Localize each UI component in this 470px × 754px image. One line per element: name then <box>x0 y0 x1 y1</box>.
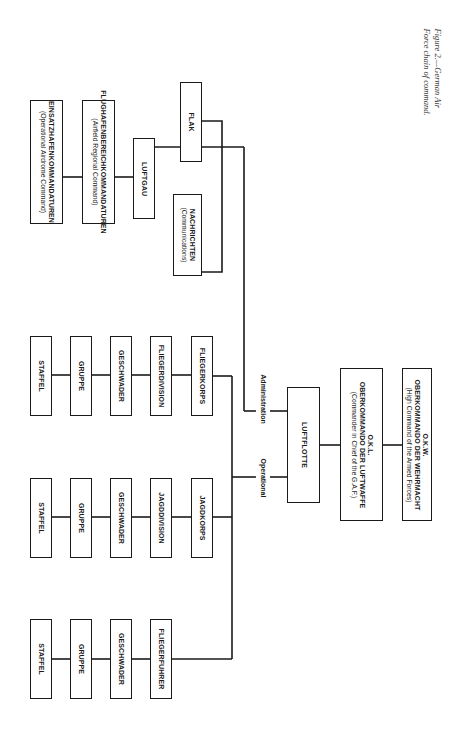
okl-abbr: O.K.L. <box>365 381 373 508</box>
chain1-item-label: GRUPPE <box>77 361 85 391</box>
chain3-item-label: GESCHWADER <box>117 633 125 685</box>
chain1-item-label: GESCHWADER <box>117 350 125 402</box>
flughafen-title: FLUGHAFENBEREICHKOMMANDATUREN <box>98 90 106 234</box>
nachrichten-box: NACHRICHTEN (Communications) <box>173 194 202 276</box>
chain2-item-label: GRUPPE <box>77 503 85 533</box>
flughafen-subtitle: (Airfield Regional Command) <box>91 90 99 234</box>
chain1-item-label: STAFFEL <box>37 360 45 392</box>
luftgau-title: LUFTGAU <box>140 161 148 195</box>
administration-label: Administration <box>260 371 267 426</box>
okl-title: OBERKOMMANDO DER LUFTWAFFE <box>357 381 365 508</box>
luftflotte-title: LUFTFLOTTE <box>299 422 307 468</box>
okw-abbr: O.K.W. <box>421 379 429 510</box>
chain2-item-label: JAGDDIVISION <box>157 492 165 543</box>
einsatzhafen-box: EINSATZHAFENKOMMANDATUREN (Operational A… <box>30 100 63 224</box>
nachrichten-title: NACHRICHTEN <box>187 207 195 262</box>
chain1-geschwader-box: GESCHWADER <box>110 336 132 416</box>
chain2-jagddivision-box: JAGDDIVISION <box>150 478 172 558</box>
chain1-item-label: FLIEGERDIVISION <box>157 345 165 408</box>
operational-label: Operational <box>260 456 267 501</box>
okl-subtitle: (Commander in Chief of the G.A.F.) <box>350 381 358 508</box>
okw-subtitle: (High Command of the Armed Forces) <box>405 379 413 510</box>
chain3-item-label: GRUPPE <box>77 644 85 674</box>
caption-line-2: Force chain of command. <box>421 28 432 115</box>
chain3-fliegerfuhrer-box: FLIEGERFUHRER <box>150 619 172 699</box>
chain1-staffel-box: STAFFEL <box>30 336 52 416</box>
chain1-gruppe-box: GRUPPE <box>70 336 92 416</box>
chain2-gruppe-box: GRUPPE <box>70 478 92 558</box>
chain3-item-label: FLIEGERFUHRER <box>157 629 165 690</box>
luftflotte-box: LUFTFLOTTE <box>287 387 320 503</box>
figure-caption: Figure 2.—German Air Force chain of comm… <box>421 28 442 115</box>
flughafen-box: FLUGHAFENBEREICHKOMMANDATUREN (Airfield … <box>82 100 115 224</box>
chain1-fliegerkorps-box: FLIEGERKORPS <box>191 336 213 416</box>
okw-box: O.K.W. OBERKOMMANDO DER WEHRMACHT (High … <box>402 368 432 521</box>
chain2-staffel-box: STAFFEL <box>30 478 52 558</box>
chain1-item-label: FLIEGERKORPS <box>198 348 206 404</box>
chain3-gruppe-box: GRUPPE <box>70 619 92 699</box>
flak-box: FLAK <box>180 82 202 162</box>
caption-line-1: Figure 2.—German Air <box>432 28 443 115</box>
einsatzhafen-subtitle: (Operational Airdrome Command) <box>39 101 47 223</box>
flak-title: FLAK <box>187 112 195 131</box>
nachrichten-subtitle: (Communications) <box>180 207 188 262</box>
chain1-fliegerdivision-box: FLIEGERDIVISION <box>150 336 172 416</box>
chain3-item-label: STAFFEL <box>37 643 45 675</box>
chain2-geschwader-box: GESCHWADER <box>110 478 132 558</box>
chain2-jagdkorps-box: JAGDKORPS <box>191 478 213 558</box>
chain3-geschwader-box: GESCHWADER <box>110 619 132 699</box>
okw-title: OBERKOMMANDO DER WEHRMACHT <box>413 379 421 510</box>
einsatzhafen-title: EINSATZHAFENKOMMANDATUREN <box>46 101 54 223</box>
chain3-staffel-box: STAFFEL <box>30 619 52 699</box>
chain2-item-label: GESCHWADER <box>117 492 125 544</box>
luftgau-box: LUFTGAU <box>133 138 155 219</box>
chain2-item-label: STAFFEL <box>37 502 45 534</box>
chain2-item-label: JAGDKORPS <box>198 495 206 540</box>
okl-box: O.K.L. OBERKOMMANDO DER LUFTWAFFE (Comma… <box>340 368 383 521</box>
